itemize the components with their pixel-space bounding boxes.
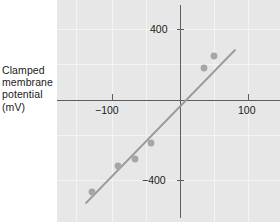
data-point xyxy=(201,65,208,72)
y-axis-label-line-3: potential xyxy=(2,88,56,100)
y-axis-label-line-2: membrane xyxy=(2,76,56,88)
y-axis-label-line-1: Clamped xyxy=(2,64,56,76)
data-point xyxy=(132,156,139,163)
data-point xyxy=(211,53,218,60)
data-point xyxy=(115,163,122,170)
scatter-plot-figure: Clamped membrane potential (mV) −100 100… xyxy=(0,0,280,222)
data-point-group xyxy=(57,0,280,222)
y-axis-label: Clamped membrane potential (mV) xyxy=(2,64,56,113)
data-point xyxy=(89,189,96,196)
plot-panel: −100 100 400 −400 xyxy=(57,0,280,222)
y-axis-label-line-4: (mV) xyxy=(2,101,56,113)
data-point xyxy=(148,140,155,147)
